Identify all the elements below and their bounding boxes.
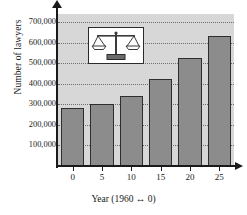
y-axis-tick-label: 700,000 <box>14 18 56 26</box>
y-axis-tick-label: 400,000 <box>14 80 56 88</box>
bar-chart-figure: Number of lawyers 100,000200,000300,0004… <box>0 0 247 215</box>
arrow-up-icon <box>52 0 62 8</box>
plot-area <box>58 14 234 166</box>
x-axis-line <box>56 165 237 167</box>
x-axis-tick-label: 15 <box>146 172 176 182</box>
bar <box>90 104 113 166</box>
y-axis-tick-label: 100,000 <box>14 141 56 149</box>
x-axis-tick <box>219 167 220 171</box>
x-axis-tick-label: 5 <box>87 172 117 182</box>
x-axis-tick-label: 10 <box>116 172 146 182</box>
scales-of-justice-inset <box>88 27 144 64</box>
x-axis-tick <box>73 167 74 171</box>
y-axis-tick-labels: 100,000200,000300,000400,000500,000600,0… <box>14 14 56 166</box>
y-axis-tick-label: 300,000 <box>14 100 56 108</box>
x-axis-tick-label: 0 <box>58 172 88 182</box>
y-axis-tick-label: 200,000 <box>14 121 56 129</box>
bar <box>208 36 231 166</box>
y-axis-tick-label: 500,000 <box>14 59 56 67</box>
y-axis-tick-label: 600,000 <box>14 39 56 47</box>
bar <box>178 58 201 166</box>
bar <box>149 79 172 166</box>
arrow-right-icon <box>235 162 243 170</box>
x-axis-tick-label: 25 <box>204 172 234 182</box>
bar <box>120 96 143 166</box>
x-axis-tick <box>102 167 103 171</box>
bar <box>61 108 84 166</box>
y-axis-line <box>56 6 58 168</box>
x-axis-tick <box>131 167 132 171</box>
x-axis-tick <box>190 167 191 171</box>
scales-of-justice-icon <box>89 28 143 63</box>
bars-group <box>58 14 234 166</box>
x-axis-tick <box>161 167 162 171</box>
x-axis-tick-label: 20 <box>175 172 205 182</box>
x-axis-title: Year (1960 ↔ 0) <box>0 194 247 204</box>
